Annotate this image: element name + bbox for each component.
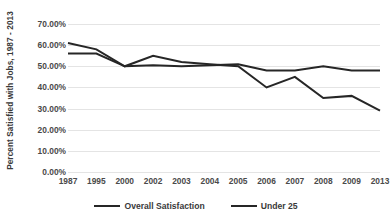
y-tick-label: 10.00% (38, 146, 66, 156)
x-tick-label: 1987 (59, 176, 78, 186)
y-tick-label: 20.00% (38, 125, 66, 135)
y-axis-tick-labels: 70.00%60.00%50.00%40.00%30.00%20.00%10.0… (18, 24, 66, 172)
x-tick-label: 2008 (314, 176, 333, 186)
series-line-2 (68, 43, 380, 111)
plot-area (68, 24, 380, 172)
x-tick-label: 1995 (87, 176, 106, 186)
chart-legend: Overall SatisfactionUnder 25 (0, 197, 392, 215)
legend-label: Under 25 (261, 201, 298, 211)
x-tick-label: 2009 (342, 176, 361, 186)
line-chart: Percent Satisfied with Jobs, 1987 - 2013… (0, 0, 392, 219)
x-axis-tick-labels: 1987199520002002200320042005200620072008… (68, 176, 380, 190)
y-axis-title: Percent Satisfied with Jobs, 1987 - 2013 (0, 0, 20, 180)
legend-entry[interactable]: Overall Satisfaction (94, 201, 204, 211)
x-tick-label: 2000 (115, 176, 134, 186)
y-tick-label: 30.00% (38, 104, 66, 114)
x-tick-label: 2007 (286, 176, 305, 186)
series-lines (68, 24, 380, 172)
y-tick-label: 50.00% (38, 61, 66, 71)
x-tick-label: 2013 (371, 176, 390, 186)
legend-line-swatch-icon (231, 205, 257, 208)
y-axis-title-text: Percent Satisfied with Jobs, 1987 - 2013 (6, 11, 15, 170)
series-line-1 (68, 54, 380, 71)
legend-label: Overall Satisfaction (124, 201, 204, 211)
x-tick-label: 2003 (172, 176, 191, 186)
y-tick-label: 40.00% (38, 82, 66, 92)
legend-entry[interactable]: Under 25 (231, 201, 298, 211)
y-tick-label: 60.00% (38, 40, 66, 50)
legend-line-swatch-icon (94, 205, 120, 208)
y-tick-label: 70.00% (38, 19, 66, 29)
gridline (68, 172, 380, 173)
x-tick-label: 2002 (144, 176, 163, 186)
x-tick-label: 2006 (257, 176, 276, 186)
x-tick-label: 2005 (229, 176, 248, 186)
x-tick-label: 2004 (200, 176, 219, 186)
